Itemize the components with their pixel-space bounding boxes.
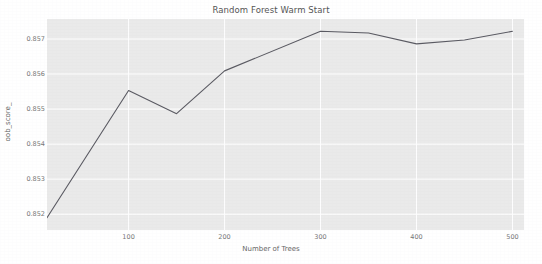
- chart-figure: Random Forest Warm Start 0.8520.8530.854…: [0, 0, 542, 264]
- x-tick-label: 200: [205, 233, 245, 241]
- x-tick-label: 500: [492, 233, 532, 241]
- x-tick-label: 100: [109, 233, 149, 241]
- x-tick-label: 400: [397, 233, 437, 241]
- x-tick-label: 300: [301, 233, 341, 241]
- y-axis-label: oob_score_: [4, 87, 12, 157]
- x-axis-label: Number of Trees: [0, 245, 542, 253]
- x-axis-tick-labels: 100200300400500: [0, 0, 542, 264]
